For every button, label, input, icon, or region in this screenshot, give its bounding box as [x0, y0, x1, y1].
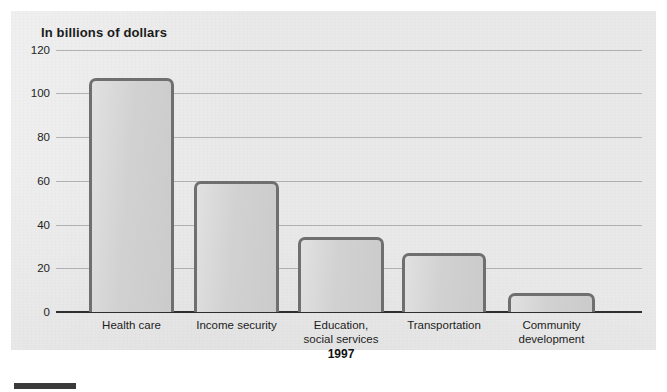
x-tick-label-community-development: Community development — [498, 318, 605, 346]
bottom-rule — [14, 383, 76, 389]
y-tick-label: 20 — [6, 262, 50, 274]
x-tick-label-education-social-services: Education, social services — [288, 318, 394, 346]
x-tick-label-transportation: Transportation — [392, 318, 496, 332]
bar-health-care[interactable] — [89, 78, 174, 312]
bar-transportation[interactable] — [402, 253, 486, 312]
x-axis-title: 1997 — [288, 347, 394, 361]
bar-education-social-services[interactable] — [298, 237, 384, 312]
gridline-120 — [56, 50, 642, 51]
x-tick-label-health-care: Health care — [79, 318, 184, 332]
bar-income-security[interactable] — [194, 181, 279, 312]
bar-community-development[interactable] — [508, 293, 595, 312]
y-tick-label: 60 — [6, 175, 50, 187]
x-tick-label-income-security: Income security — [184, 318, 289, 332]
y-tick-label: 120 — [6, 44, 50, 56]
chart-title: In billions of dollars — [41, 25, 167, 40]
y-tick-label: 80 — [6, 131, 50, 143]
y-tick-label: 40 — [6, 219, 50, 231]
figure: In billions of dollars 120 100 80 60 40 … — [0, 0, 667, 392]
y-tick-label: 100 — [6, 87, 50, 99]
y-tick-label: 0 — [6, 306, 50, 318]
